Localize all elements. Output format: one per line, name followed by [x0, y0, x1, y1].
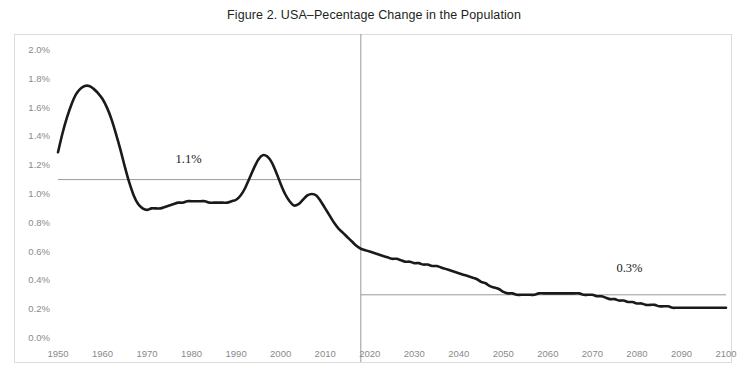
y-tick-label: 0.8% — [10, 217, 50, 228]
y-tick-label: 1.4% — [10, 130, 50, 141]
x-tick-label: 2080 — [616, 348, 658, 359]
y-tick-label: 0.6% — [10, 246, 50, 257]
x-tick-label: 2000 — [260, 348, 302, 359]
y-tick-label: 1.0% — [10, 188, 50, 199]
figure-container: Figure 2. USA–Pecentage Change in the Po… — [0, 0, 748, 386]
y-tick-label: 0.0% — [10, 332, 50, 343]
x-tick-label: 2010 — [304, 348, 346, 359]
y-tick-label: 0.4% — [10, 274, 50, 285]
y-tick-label: 1.8% — [10, 73, 50, 84]
x-tick-label: 1980 — [171, 348, 213, 359]
x-tick-label: 1960 — [82, 348, 124, 359]
x-tick-label: 2020 — [349, 348, 391, 359]
chart-canvas — [0, 0, 748, 386]
upper-reference-annotation: 1.1% — [176, 152, 202, 167]
x-tick-label: 1950 — [37, 348, 79, 359]
x-tick-label: 2030 — [393, 348, 435, 359]
lower-reference-annotation: 0.3% — [616, 261, 642, 276]
x-tick-label: 2090 — [660, 348, 702, 359]
y-tick-label: 2.0% — [10, 44, 50, 55]
x-tick-label: 1970 — [126, 348, 168, 359]
y-tick-label: 1.2% — [10, 159, 50, 170]
x-tick-label: 2060 — [527, 348, 569, 359]
reference-lines-group — [58, 180, 726, 295]
x-tick-label: 1990 — [215, 348, 257, 359]
y-tick-label: 0.2% — [10, 303, 50, 314]
x-tick-label: 2070 — [571, 348, 613, 359]
x-tick-label: 2040 — [438, 348, 480, 359]
y-tick-label: 1.6% — [10, 102, 50, 113]
x-tick-label: 2100 — [705, 348, 747, 359]
x-tick-label: 2050 — [482, 348, 524, 359]
